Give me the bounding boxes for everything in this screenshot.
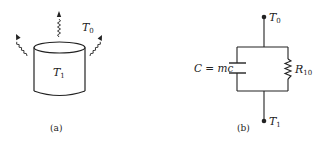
- caption-b: (b): [237, 123, 250, 133]
- bottom-node-dot: [262, 119, 267, 124]
- heat-arrow-right: [90, 35, 102, 56]
- top-node-dot: [262, 15, 267, 20]
- diagram-canvas: T0 T1 (a) T0 T1 C = mc R10 (b): [0, 0, 333, 152]
- resistor-symbol: [285, 59, 291, 79]
- ambient-temperature-label: T0: [82, 21, 94, 35]
- arrowhead-icon: [57, 11, 61, 17]
- circuit-wires: [237, 17, 288, 121]
- figure-b: T0 T1 C = mc R10 (b): [194, 11, 312, 133]
- arrowhead-icon: [98, 35, 102, 41]
- bottom-node-label: T1: [269, 115, 281, 129]
- cylinder-top-ellipse: [34, 42, 85, 53]
- heat-arrow-left: [16, 34, 27, 56]
- capacitor-label: C = mc: [194, 62, 233, 74]
- heat-arrow-center: [57, 11, 61, 37]
- resistor-label: R10: [294, 63, 312, 77]
- top-node-label: T0: [269, 11, 281, 25]
- figure-a: T0 T1 (a): [16, 11, 102, 133]
- cylinder-bottom-arc: [34, 91, 85, 96]
- caption-a: (a): [50, 123, 62, 133]
- arrowhead-icon: [16, 34, 21, 40]
- body-temperature-label: T1: [53, 66, 65, 80]
